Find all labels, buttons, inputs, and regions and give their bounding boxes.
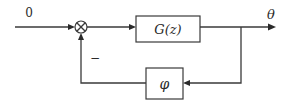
input-arrow-icon	[68, 24, 75, 30]
feedback-arrow-icon	[183, 80, 190, 86]
output-arrow-icon	[268, 24, 276, 31]
feedback-block-label: φ	[160, 76, 170, 92]
output-signal: θ	[200, 7, 276, 31]
feedback-return-arrow-icon	[78, 33, 84, 40]
feedback-sign: −	[90, 51, 100, 65]
feedback-block: φ	[146, 68, 183, 99]
input-label: 0	[25, 6, 33, 20]
block-diagram: 0 G(z) θ φ −	[0, 0, 293, 103]
forward-block-label: G(z)	[154, 22, 181, 37]
forward-block: G(z)	[136, 16, 200, 42]
summing-junction	[75, 21, 87, 33]
input-signal: 0	[15, 6, 75, 30]
output-label: θ	[267, 7, 275, 22]
forward-arrow-icon	[129, 24, 136, 30]
